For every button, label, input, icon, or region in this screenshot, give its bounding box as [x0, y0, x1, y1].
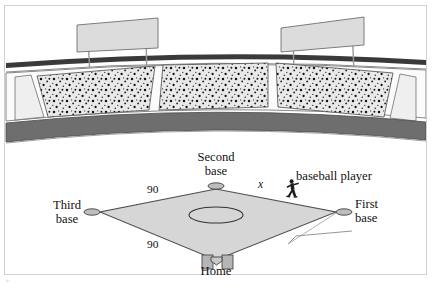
infield-diamond: [100, 189, 336, 260]
corner-registration-mark: +: [5, 278, 10, 283]
first-base-marker: [336, 209, 352, 215]
second-base-label-line1: Second: [186, 151, 246, 165]
baseball-player-label: baseball player: [296, 170, 372, 184]
baseball-diamond-figure: Second base Third base First base Home b…: [0, 0, 432, 292]
outfield-wall: [6, 112, 426, 143]
home-label: Home: [191, 265, 241, 279]
first-base-label-line2: base: [355, 212, 377, 226]
side-length-label-lower: 90: [147, 238, 158, 250]
first-base-label-line1: First: [355, 198, 378, 212]
figure-canvas: [0, 0, 432, 292]
side-length-label-upper: 90: [147, 183, 158, 195]
second-base-label-line2: base: [186, 165, 246, 179]
x-distance-label: x: [258, 178, 263, 190]
third-base-label-line1: Third: [42, 199, 92, 213]
second-base-marker: [208, 183, 224, 189]
pitchers-mound: [189, 207, 243, 223]
third-base-label-line2: base: [42, 213, 92, 227]
